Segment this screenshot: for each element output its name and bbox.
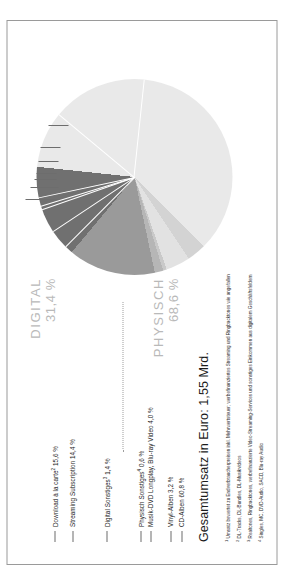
group-digital-name: DIGITAL bbox=[27, 278, 42, 374]
footnote-text: DL-Tracks, DL-Bundles, DL-Musikvideos bbox=[237, 456, 242, 539]
group-digital-value: 31,4 % bbox=[42, 278, 57, 374]
footnote-item: 1 Umsatz bewertet zu Endverbraucherpreis… bbox=[222, 42, 233, 542]
rotated-figure-canvas: DIGITAL 31,4 % PHYSISCH 68,6 % Download … bbox=[0, 0, 289, 572]
leader-streaming bbox=[30, 187, 58, 188]
label-download-sup: 2 bbox=[50, 468, 55, 471]
label-download: Download à la carte2 15,6 % bbox=[50, 446, 58, 527]
label-musik-dvd-value: 4,0 % bbox=[146, 407, 153, 423]
footnote-text: Singles, MC, DVD-Audio, SACD, Blu-ray Au… bbox=[259, 443, 264, 538]
leader-cd bbox=[48, 125, 68, 126]
label-digital-other-text: Digital Sonstiges bbox=[103, 479, 110, 527]
dash-download bbox=[54, 531, 55, 542]
footnote-item: 2 DL-Tracks, DL-Bundles, DL-Musikvideos bbox=[233, 42, 244, 542]
label-vinyl-value: 3,2 % bbox=[166, 477, 173, 493]
label-download-text: Download à la carte bbox=[51, 470, 58, 527]
label-streaming: Streaming Subscription 14,4 % bbox=[68, 439, 75, 527]
label-download-value: 15,6 % bbox=[51, 446, 58, 466]
footnote-marker: 1 bbox=[223, 540, 228, 542]
group-physical-name: PHYSISCH bbox=[150, 278, 165, 374]
dash-streaming bbox=[72, 531, 73, 542]
leader-digital-other-v bbox=[34, 179, 56, 180]
label-vinyl: Vinyl-Alben 3,2 % bbox=[166, 477, 173, 527]
label-physisch-other-value: 0,6 % bbox=[137, 451, 144, 467]
dash-cd bbox=[181, 531, 182, 542]
footnote-marker: 2 bbox=[234, 540, 239, 542]
dash-phys-other bbox=[140, 531, 141, 542]
footnote-marker: 3 bbox=[245, 540, 250, 542]
footnote-list: 1 Umsatz bewertet zu Endverbraucherpreis… bbox=[222, 42, 267, 542]
label-digital-other: Digital Sonstiges3 1,4 % bbox=[102, 458, 110, 527]
label-musik-dvd-text: Musik-DVD Longplay, Blu-ray Video bbox=[146, 425, 153, 527]
leader-phys-other-v bbox=[36, 173, 56, 174]
label-digital-other-value: 1,4 % bbox=[103, 458, 110, 474]
label-cd-value: 60,8 % bbox=[177, 478, 184, 498]
dash-dvd bbox=[150, 531, 151, 542]
footnote-text: Realtones, Ringbacktones, werbefinanzier… bbox=[248, 274, 253, 538]
footnote-text: Umsatz bewertet zu Endverbraucherpreisen… bbox=[226, 274, 231, 538]
footnote-item: 4 Singles, MC, DVD-Audio, SACD, Blu-ray … bbox=[255, 42, 266, 542]
figure-page: DIGITAL 31,4 % PHYSISCH 68,6 % Download … bbox=[0, 0, 289, 572]
label-physisch-other-text: Physisch Sonstiges bbox=[137, 472, 144, 528]
group-physical-value: 68,6 % bbox=[165, 278, 180, 374]
chart-headline: Gesamtumsatz in Euro: 1,55 Mrd. bbox=[196, 352, 210, 542]
leader-download bbox=[25, 199, 58, 200]
group-label-digital: DIGITAL 31,4 % bbox=[27, 278, 57, 374]
label-cd: CD-Alben 60,8 % bbox=[177, 478, 184, 527]
label-physisch-other-sup: 4 bbox=[136, 469, 141, 472]
label-musik-dvd: Musik-DVD Longplay, Blu-ray Video 4,0 % bbox=[146, 407, 153, 527]
footnote-item: 3 Realtones, Ringbacktones, werbefinanzi… bbox=[244, 42, 255, 542]
label-cd-text: CD-Alben bbox=[177, 499, 184, 527]
group-label-physisch: PHYSISCH 68,6 % bbox=[150, 278, 180, 374]
label-streaming-text: Streaming Subscription bbox=[68, 461, 75, 527]
dash-digital-other bbox=[106, 531, 107, 542]
pie-chart bbox=[36, 79, 232, 275]
dash-vinyl bbox=[170, 531, 171, 542]
footnote-marker: 4 bbox=[256, 540, 261, 542]
label-streaming-value: 14,4 % bbox=[68, 439, 75, 459]
leader-vinyl bbox=[40, 147, 60, 148]
label-digital-other-sup: 3 bbox=[102, 477, 107, 480]
label-vinyl-text: Vinyl-Alben bbox=[166, 495, 173, 527]
leader-dvd bbox=[38, 161, 58, 162]
label-physisch-other: Physisch Sonstiges4 0,6 % bbox=[136, 451, 144, 527]
group-separator bbox=[122, 302, 123, 452]
